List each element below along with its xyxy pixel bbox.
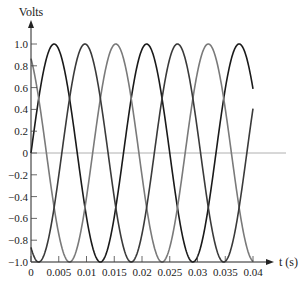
x-axis-arrow-icon [266,259,274,265]
y-tick-label: 0.6 [14,82,28,94]
y-axis-title: Volts [19,5,44,19]
y-tick-label: −0.8 [8,234,28,246]
three-phase-voltage-chart: 1.00.80.60.40.20−0.2−0.4−0.6−0.8−1.0 00.… [0,0,308,281]
x-tick-label: 0.04 [243,266,263,278]
y-tick-label: 1.0 [14,38,28,50]
x-axis-title: t (s) [279,255,298,269]
axes [28,20,274,265]
x-tick-label: 0.005 [46,266,71,278]
y-tick-label: 0.4 [14,103,28,115]
y-axis-ticks: 1.00.80.60.40.20−0.2−0.4−0.6−0.8−1.0 [8,38,37,268]
y-tick-label: −1.0 [8,256,28,268]
x-tick-label: 0.015 [102,266,127,278]
y-tick-label: 0.2 [14,125,28,137]
y-tick-label: −0.2 [8,169,28,181]
y-tick-label: −0.4 [8,191,28,203]
y-tick-label: 0.8 [14,60,28,72]
x-tick-label: 0.025 [157,266,182,278]
x-tick-label: 0.035 [213,266,238,278]
y-tick-label: −0.6 [8,212,28,224]
x-tick-label: 0.02 [132,266,151,278]
x-tick-label: 0.01 [77,266,96,278]
x-tick-label: 0 [28,266,34,278]
y-tick-label: 0 [23,147,29,159]
y-axis-arrow-icon [28,20,34,28]
x-tick-label: 0.03 [188,266,208,278]
